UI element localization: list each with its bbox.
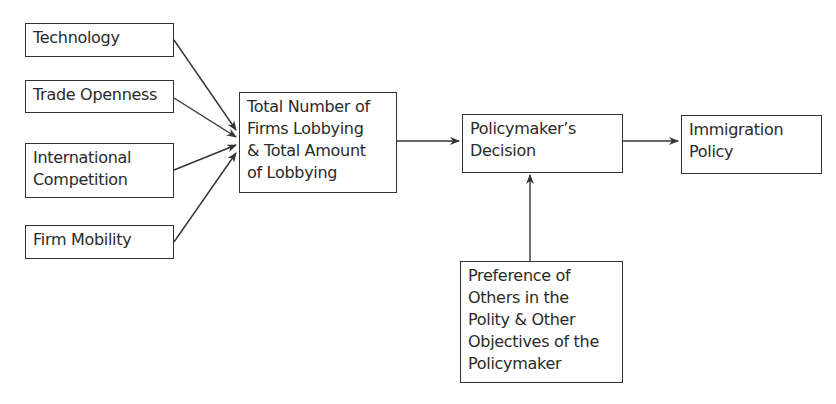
- node-label: Preference of Others in the Polity & Oth…: [468, 265, 615, 375]
- node-immigration-policy: Immigration Policy: [681, 115, 822, 174]
- node-firm-mobility: Firm Mobility: [25, 225, 174, 259]
- node-label: Total Number of Firms Lobbying & Total A…: [247, 96, 389, 184]
- node-policymaker-decision: Policymaker’s Decision: [462, 114, 623, 173]
- node-trade-openness: Trade Openness: [25, 80, 174, 113]
- node-technology: Technology: [25, 23, 174, 57]
- arrow-technology-to-lobbying: [174, 40, 236, 130]
- node-label: Firm Mobility: [33, 229, 166, 251]
- node-label: Technology: [33, 27, 166, 49]
- node-lobbying: Total Number of Firms Lobbying & Total A…: [239, 92, 397, 193]
- node-preferences: Preference of Others in the Polity & Oth…: [460, 261, 623, 383]
- node-international-competition: International Competition: [25, 143, 174, 198]
- node-label: Immigration Policy: [689, 119, 814, 163]
- node-label: Policymaker’s Decision: [470, 118, 615, 162]
- node-label: International Competition: [33, 147, 166, 191]
- connector-arrows: [0, 0, 836, 404]
- node-label: Trade Openness: [33, 84, 166, 106]
